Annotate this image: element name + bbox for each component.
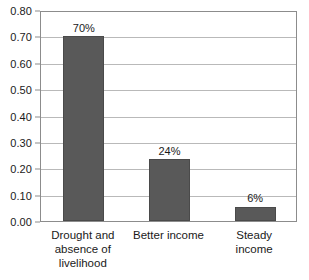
y-axis: 0.800.700.600.500.400.300.200.100.00 xyxy=(0,11,40,222)
x-axis-category-label: Drought andabsence oflivelihood xyxy=(51,228,114,270)
bar-chart-figure: 0.800.700.600.500.400.300.200.100.00 70%… xyxy=(0,0,309,280)
y-axis-tick-label: 0.20 xyxy=(0,164,32,175)
bar-value-label: 70% xyxy=(73,23,95,34)
y-axis-tick-label: 0.00 xyxy=(0,217,32,228)
y-axis-tick-label: 0.60 xyxy=(0,58,32,69)
y-axis-tick-label: 0.40 xyxy=(0,111,32,122)
x-axis-category-line: Steady income xyxy=(233,228,276,256)
y-axis-tick-label: 0.30 xyxy=(0,137,32,148)
y-axis-tick-label: 0.70 xyxy=(0,32,32,43)
y-axis-tick-label: 0.50 xyxy=(0,85,32,96)
x-axis-category-line: absence of xyxy=(51,242,114,256)
y-axis-tick-label: 0.10 xyxy=(0,190,32,201)
y-axis-tick-label: 0.80 xyxy=(0,6,32,17)
bar-value-label: 24% xyxy=(158,146,180,157)
x-axis-category-label: Better income xyxy=(133,228,204,242)
x-axis-category-line: Better income xyxy=(133,228,204,242)
x-axis: Drought andabsence oflivelihoodBetter in… xyxy=(40,228,297,280)
x-axis-category-line: Drought and xyxy=(51,228,114,242)
bar[interactable] xyxy=(149,159,190,221)
bar[interactable] xyxy=(63,36,104,221)
x-axis-category-line: livelihood xyxy=(51,256,114,270)
x-axis-category-label: Steady income xyxy=(233,228,276,256)
bar[interactable] xyxy=(235,207,276,222)
bar-value-label: 6% xyxy=(247,193,263,204)
plot-area: 70%24%6% xyxy=(40,11,297,222)
